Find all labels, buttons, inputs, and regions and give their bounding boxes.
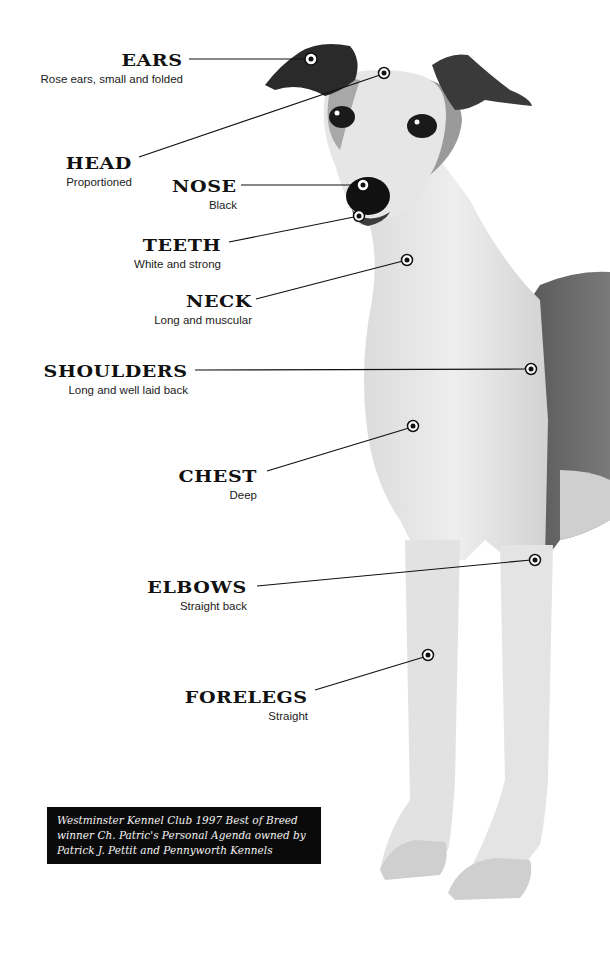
annotation-shoulders: SHOULDERS Long and well laid back — [59, 362, 188, 397]
annotation-title: ELBOWS — [148, 578, 247, 596]
photo-caption: Westminster Kennel Club 1997 Best of Bre… — [47, 807, 321, 864]
dog-body — [364, 160, 610, 900]
annotation-description: Straight back — [158, 599, 247, 613]
marker-forelegs-icon — [423, 650, 434, 661]
annotation-description: Proportioned — [66, 175, 132, 189]
annotation-title: HEAD — [58, 154, 132, 172]
annotation-title: SHOULDERS — [44, 362, 188, 380]
marker-nose-icon — [357, 179, 369, 191]
marker-ears-icon — [305, 53, 317, 65]
whippet-anatomy-diagram: EARS Rose ears, small and folded HEAD Pr… — [0, 0, 610, 953]
annotation-description: White and strong — [134, 257, 221, 271]
annotation-teeth: TEETH White and strong — [134, 236, 221, 271]
annotation-title: NOSE — [172, 177, 237, 195]
leader-line-elbows — [257, 560, 531, 586]
annotation-title: EARS — [23, 51, 183, 69]
annotation-description: Long and well laid back — [59, 383, 188, 397]
annotation-elbows: ELBOWS Straight back — [158, 578, 247, 613]
annotation-forelegs: FORELEGS Straight — [198, 688, 308, 723]
annotation-description: Rose ears, small and folded — [40, 72, 183, 86]
dog-head — [265, 44, 532, 226]
annotation-title: FORELEGS — [185, 688, 308, 706]
marker-shoulders-icon — [526, 364, 537, 375]
annotation-chest: CHEST Deep — [187, 467, 257, 502]
marker-chest-icon — [408, 421, 419, 432]
annotation-title: NECK — [142, 292, 252, 310]
caption-line: Patrick J. Pettit and Pennyworth Kennels — [57, 843, 321, 858]
marker-elbows-icon — [530, 555, 541, 566]
marker-neck-icon — [402, 255, 413, 266]
annotation-ears: EARS Rose ears, small and folded — [40, 51, 183, 86]
annotation-description: Deep — [187, 488, 257, 502]
marker-head-icon — [379, 68, 390, 79]
caption-line: winner Ch. Patric's Personal Agenda owne… — [57, 828, 321, 843]
annotation-description: Black — [179, 198, 237, 212]
leader-line-teeth — [229, 217, 354, 242]
annotation-head: HEAD Proportioned — [66, 154, 132, 189]
annotation-nose: NOSE Black — [179, 177, 237, 212]
annotation-title: CHEST — [179, 467, 257, 485]
marker-teeth-icon — [354, 211, 365, 222]
caption-line: Westminster Kennel Club 1997 Best of Bre… — [57, 813, 321, 828]
annotation-neck: NECK Long and muscular — [154, 292, 252, 327]
annotation-description: Straight — [198, 709, 308, 723]
annotation-description: Long and muscular — [154, 313, 252, 327]
annotation-title: TEETH — [124, 236, 221, 254]
